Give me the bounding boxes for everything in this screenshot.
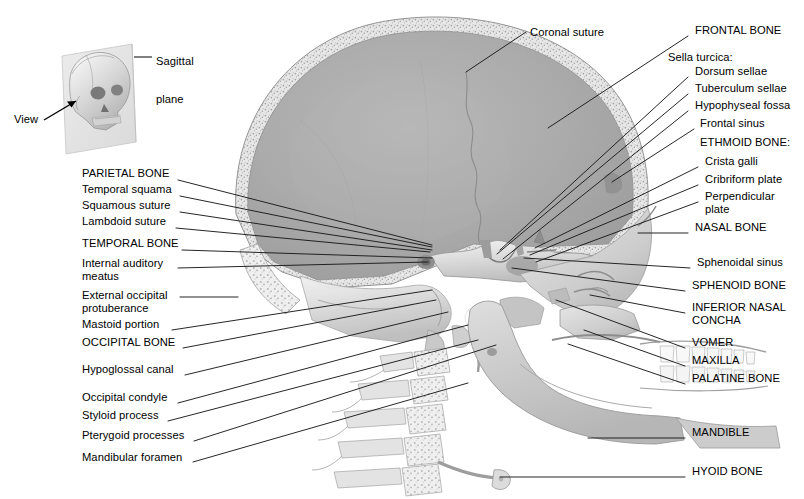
label-mastoid-portion-text: Mastoid portion	[82, 318, 159, 331]
label-frontal-sinus-text: Frontal sinus	[700, 117, 765, 130]
label-ethmoid-bone-group: ETHMOID BONE:	[700, 136, 790, 149]
label-cribriform-plate: Cribriform plate	[705, 173, 782, 186]
label-mandible-text: MANDIBLE	[692, 426, 750, 439]
label-ethmoid-bone-group-text: ETHMOID BONE:	[700, 136, 790, 149]
label-vomer-text: VOMER	[692, 336, 733, 349]
label-hyoid-bone: HYOID BONE	[692, 465, 763, 478]
label-frontal-sinus: Frontal sinus	[700, 117, 765, 130]
label-perpendicular-plate: Perpendicularplate	[705, 190, 775, 215]
label-sella-turcica-group-text: Sella turcica:	[668, 51, 733, 64]
label-palatine-bone-text: PALATINE BONE	[692, 372, 780, 385]
label-mandibular-foramen-text: Mandibular foramen	[82, 451, 182, 464]
label-mastoid-portion: Mastoid portion	[82, 318, 159, 331]
label-sphenoidal-sinus-text: Sphenoidal sinus	[697, 256, 783, 269]
label-pterygoid-processes: Pterygoid processes	[82, 429, 184, 442]
label-maxilla: MAXILLA	[692, 354, 740, 367]
label-mandibular-foramen: Mandibular foramen	[82, 451, 182, 464]
label-external-occipital-protuberance-text: External occipital	[82, 289, 167, 302]
label-dorsum-sellae: Dorsum sellae	[695, 65, 767, 78]
label-squamous-suture-text: Squamous suture	[82, 199, 170, 212]
label-perpendicular-plate-text: Perpendicular	[705, 190, 775, 203]
label-tuberculum-sellae-text: Tuberculum sellae	[695, 82, 787, 95]
cranial-vault	[236, 17, 649, 288]
label-hypoglossal-canal: Hypoglossal canal	[82, 363, 174, 376]
leader-line-pterygoid-processes	[194, 345, 496, 441]
label-nasal-bone: NASAL BONE	[695, 221, 767, 234]
label-internal-auditory-meatus: Internal auditorymeatus	[82, 257, 163, 282]
label-hypophyseal-fossa: Hypophyseal fossa	[695, 99, 790, 112]
label-hyoid-bone-text: HYOID BONE	[692, 465, 763, 478]
label-frontal-bone: FRONTAL BONE	[695, 24, 781, 37]
label-palatine-bone: PALATINE BONE	[692, 372, 780, 385]
anatomy-figure: Coronal suturePARIETAL BONETemporal squa…	[0, 0, 804, 499]
label-occipital-condyle: Occipital condyle	[82, 391, 167, 404]
label-temporal-squama: Temporal squama	[82, 183, 172, 196]
label-sella-turcica-group: Sella turcica:	[668, 51, 733, 64]
label-temporal-squama-text: Temporal squama	[82, 183, 172, 196]
label-dorsum-sellae-text: Dorsum sellae	[695, 65, 767, 78]
inset-view-label: View	[14, 113, 38, 126]
label-internal-auditory-meatus-text: meatus	[82, 270, 163, 283]
label-external-occipital-protuberance-text: protuberance	[82, 302, 167, 315]
label-tuberculum-sellae: Tuberculum sellae	[695, 82, 787, 95]
label-coronal-suture: Coronal suture	[530, 26, 604, 39]
label-sphenoidal-sinus: Sphenoidal sinus	[697, 256, 783, 269]
label-nasal-bone-text: NASAL BONE	[695, 221, 767, 234]
label-temporal-bone-text: TEMPORAL BONE	[82, 237, 179, 250]
label-cribriform-plate-text: Cribriform plate	[705, 173, 782, 186]
label-coronal-suture-text: Coronal suture	[530, 26, 604, 39]
label-frontal-bone-text: FRONTAL BONE	[695, 24, 781, 37]
label-sphenoid-bone: SPHENOID BONE	[692, 279, 786, 292]
label-inferior-nasal-concha: INFERIOR NASALCONCHA	[692, 301, 786, 326]
inset-sagittal-plane-line-1: Sagittal	[156, 55, 194, 68]
label-parietal-bone: PARIETAL BONE	[82, 167, 169, 180]
label-squamous-suture: Squamous suture	[82, 199, 170, 212]
label-occipital-condyle-text: Occipital condyle	[82, 391, 167, 404]
label-mandible: MANDIBLE	[692, 426, 750, 439]
label-crista-galli: Crista galli	[705, 155, 758, 168]
label-inferior-nasal-concha-text: CONCHA	[692, 314, 786, 327]
label-perpendicular-plate-text: plate	[705, 203, 775, 216]
label-sphenoid-bone-text: SPHENOID BONE	[692, 279, 786, 292]
label-lambdoid-suture: Lambdoid suture	[82, 215, 166, 228]
label-pterygoid-processes-text: Pterygoid processes	[82, 429, 184, 442]
hyoid-bone	[438, 462, 510, 489]
label-temporal-bone: TEMPORAL BONE	[82, 237, 179, 250]
label-occipital-bone-text: OCCIPITAL BONE	[82, 336, 175, 349]
label-occipital-bone: OCCIPITAL BONE	[82, 336, 175, 349]
label-styloid-process: Styloid process	[82, 409, 159, 422]
label-parietal-bone-text: PARIETAL BONE	[82, 167, 169, 180]
label-hypophyseal-fossa-text: Hypophyseal fossa	[695, 99, 790, 112]
inset-sagittal-plane-label: Sagittal plane	[156, 30, 194, 131]
inset-sagittal-plane-line-2: plane	[156, 93, 194, 106]
label-maxilla-text: MAXILLA	[692, 354, 740, 367]
label-styloid-process-text: Styloid process	[82, 409, 159, 422]
label-internal-auditory-meatus-text: Internal auditory	[82, 257, 163, 270]
label-inferior-nasal-concha-text: INFERIOR NASAL	[692, 301, 786, 314]
label-hypoglossal-canal-text: Hypoglossal canal	[82, 363, 174, 376]
label-lambdoid-suture-text: Lambdoid suture	[82, 215, 166, 228]
label-external-occipital-protuberance: External occipitalprotuberance	[82, 289, 167, 314]
label-vomer: VOMER	[692, 336, 733, 349]
label-crista-galli-text: Crista galli	[705, 155, 758, 168]
